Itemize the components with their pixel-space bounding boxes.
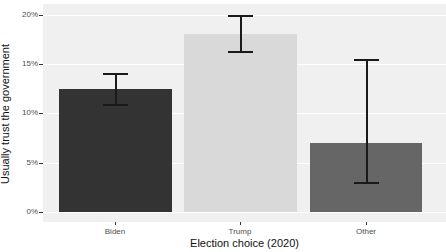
x-tick-mark [115,222,116,225]
gridline-0 [43,212,446,213]
x-tick-mark [240,222,241,225]
x-axis-title: Election choice (2020) [43,237,446,249]
y-tick-mark [39,113,43,114]
bar-trump [184,34,297,212]
y-tick-label: 20% [8,10,38,19]
error-bar-trump [240,15,242,51]
x-tick-label-trump: Trump [210,227,270,236]
y-tick-label: 15% [8,59,38,68]
error-cap-bottom-other [354,182,379,184]
error-cap-top-biden [103,73,128,75]
y-tick-mark [39,15,43,16]
y-tick-mark [39,64,43,65]
error-bar-biden [115,73,117,104]
plot-panel [43,4,446,222]
y-tick-label: 5% [8,158,38,167]
bar-biden [59,89,172,212]
error-bar-other [366,59,368,182]
error-cap-bottom-biden [103,104,128,106]
y-tick-mark [39,163,43,164]
error-cap-top-trump [228,15,253,17]
y-tick-label: 0% [8,207,38,216]
y-axis-title: Usually trust the government [0,14,11,214]
y-tick-label: 10% [8,108,38,117]
y-tick-mark [39,212,43,213]
x-tick-label-biden: Biden [85,227,145,236]
error-cap-bottom-trump [228,51,253,53]
x-tick-label-other: Other [336,227,396,236]
x-tick-mark [366,222,367,225]
error-cap-top-other [354,59,379,61]
